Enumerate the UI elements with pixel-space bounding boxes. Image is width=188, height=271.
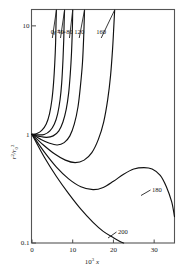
y-title-sup2: 2: [10, 144, 15, 147]
y-tick-labels: 1010.1: [21, 22, 30, 247]
curve-200: [32, 134, 124, 243]
series-label-80: 80: [66, 28, 73, 35]
x-tick-label: 10: [69, 246, 77, 254]
series-label-200: 200: [118, 228, 129, 235]
chart-canvas: 0102030 1010.1 04080120160 180200 γ⁺ = r…: [0, 0, 188, 271]
series-label-160: 160: [96, 28, 107, 35]
x-tick-label: 20: [110, 246, 118, 254]
y-axis-title-text: r2/r02: [10, 144, 19, 159]
leader-180: [141, 190, 151, 196]
x-axis-title: 103 x: [85, 257, 100, 266]
x-tick-labels: 0102030: [30, 246, 158, 254]
x-tick-label: 30: [151, 246, 159, 254]
y-axis-title: r2/r02: [10, 144, 19, 159]
curve-180: [32, 134, 175, 216]
y-tick-label: 0.1: [21, 239, 30, 247]
x-title-var2: x: [95, 258, 100, 266]
x-tick-label: 0: [30, 246, 34, 254]
data-curves: [32, 10, 175, 243]
figure-panel: 0102030 1010.1 04080120160 180200 γ⁺ = r…: [0, 0, 188, 271]
series-label-120: 120: [74, 28, 85, 35]
y-tick-label: 1: [26, 131, 30, 139]
y-tick-label: 10: [23, 22, 31, 30]
series-label-180: 180: [152, 186, 163, 193]
x-axis-title-text: 103 x: [85, 257, 100, 266]
series-inline-labels: 180200: [108, 186, 163, 238]
param-label-text: γ⁺ =: [53, 28, 67, 36]
parameter-legend-label: γ⁺ =: [53, 28, 67, 36]
